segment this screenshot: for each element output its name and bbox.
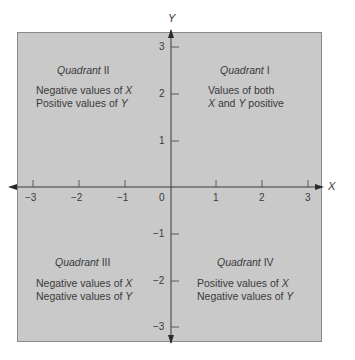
quadrant-i-description: Values of both X and Y positive [208,84,284,110]
y-axis-down-arrow-icon [168,335,174,344]
x-tick-label: −1 [117,192,128,203]
cartesian-quadrant-diagram: Y X −3 −2 −1 0 1 2 3 3 2 1 −1 −2 −3 Quad… [0,0,355,360]
y-tick-label: −1 [153,228,164,239]
y-tick-label: −3 [153,321,164,332]
x-tick-label: 0 [159,192,165,203]
quadrant-i-title: Quadrant I [220,64,270,76]
quadrant-iii-title: Quadrant III [55,256,110,268]
y-tick-label: 1 [159,135,165,146]
quadrant-iv-title: Quadrant IV [217,256,274,268]
x-tick-label: 2 [259,192,265,203]
y-tick-label: 3 [159,41,165,52]
x-tick-label: −3 [25,192,36,203]
y-axis-label: Y [168,12,175,24]
x-axis-left-arrow-icon [8,184,17,190]
x-tick-label: 3 [305,192,311,203]
y-tick-label: −2 [153,275,164,286]
quadrant-iii-description: Negative values of X Negative values of … [36,277,132,303]
x-tick-label: 1 [213,192,219,203]
x-tick-label: −2 [71,192,82,203]
x-axis-label: X [328,180,335,192]
y-tick-label: 2 [159,88,165,99]
x-axis-right-arrow-icon [315,184,324,190]
y-axis-up-arrow-icon [168,29,174,38]
quadrant-iv-description: Positive values of X Negative values of … [197,277,293,303]
quadrant-ii-title: Quadrant II [57,64,110,76]
axes [0,0,355,360]
quadrant-ii-description: Negative values of X Positive values of … [36,84,132,110]
